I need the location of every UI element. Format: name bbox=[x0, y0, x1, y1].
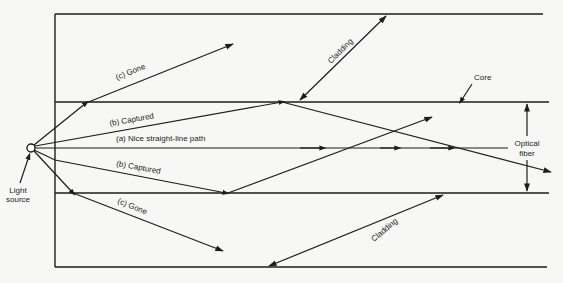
label-optical-fiber-1: Optical bbox=[515, 139, 540, 148]
label-light-source-1: Light bbox=[9, 186, 27, 195]
label-optical-fiber-2: fiber bbox=[519, 149, 535, 158]
label-core: Core bbox=[474, 73, 492, 82]
light-source-pointer bbox=[20, 156, 29, 183]
cladding-top-dimension bbox=[300, 16, 386, 100]
label-straight-path: (a) Nice straight-line path bbox=[116, 134, 205, 143]
label-cladding-bottom: Cladding bbox=[370, 216, 400, 243]
ray-b-captured-lower bbox=[34, 117, 432, 193]
core-pointer bbox=[461, 84, 472, 101]
light-source-icon bbox=[27, 144, 35, 152]
label-gone-lower: (c) Gone bbox=[116, 197, 149, 217]
optical-fiber-diagram: (c) Gone (b) Captured (a) Nice straight-… bbox=[0, 0, 563, 283]
cladding-bottom-dimension bbox=[269, 195, 443, 266]
ray-b-captured-upper bbox=[35, 102, 551, 172]
label-gone-upper: (c) Gone bbox=[114, 62, 147, 82]
ray-c-gone-upper bbox=[34, 44, 233, 145]
label-light-source-2: source bbox=[6, 195, 31, 204]
